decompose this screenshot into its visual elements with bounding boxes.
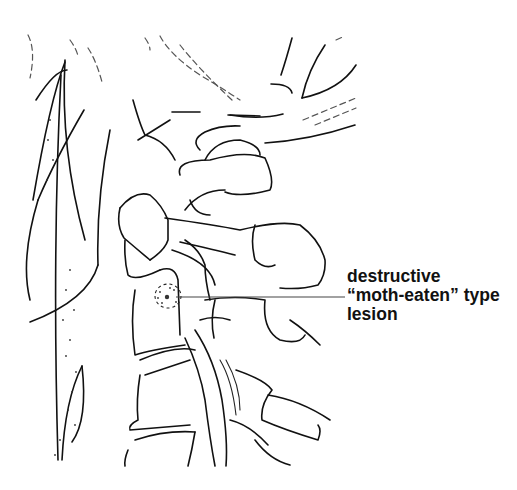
label-line-2: “moth-eaten” type <box>347 286 500 305</box>
soft-tissue-stippling <box>46 119 77 456</box>
upper-cervical-vertebrae <box>119 126 325 289</box>
label-line-1: destructive <box>347 267 500 286</box>
neck-soft-tissue <box>26 60 175 460</box>
cervical-spine-illustration <box>0 0 517 490</box>
label-line-3: lesion <box>347 305 500 324</box>
skull-base-lines <box>28 35 356 143</box>
lower-cervical-vertebrae <box>125 240 330 466</box>
lesion-annotation-label: destructive “moth-eaten” type lesion <box>347 267 500 324</box>
